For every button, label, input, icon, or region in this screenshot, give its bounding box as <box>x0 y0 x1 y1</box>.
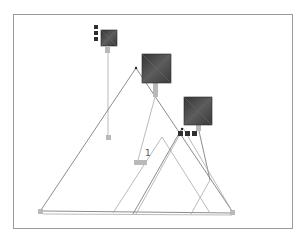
port-square <box>94 37 98 41</box>
stub-c-connector <box>196 125 201 131</box>
stub-b-connector <box>153 83 158 97</box>
end-b-connector <box>134 160 147 165</box>
edge-line <box>41 68 136 210</box>
edge-line <box>183 128 232 211</box>
connector-stubs <box>38 47 235 215</box>
stub-a-connector <box>105 47 110 53</box>
end-a-connector <box>106 135 111 140</box>
port-square <box>94 31 98 35</box>
edge-line <box>136 68 232 211</box>
end-right-connector <box>230 210 235 215</box>
anchor-dot <box>135 67 137 69</box>
edge-line <box>199 131 210 180</box>
port-square <box>178 131 183 136</box>
edge-line <box>43 214 232 215</box>
edge-line <box>113 137 162 213</box>
node-a[interactable] <box>101 30 117 46</box>
edge-line <box>136 136 179 214</box>
end-left-connector <box>38 209 43 214</box>
edge-line <box>133 130 181 214</box>
port-square <box>185 131 190 136</box>
anchor-dot <box>181 128 183 130</box>
node-b[interactable] <box>142 54 171 83</box>
edges <box>41 53 232 215</box>
edge-label: 1 <box>145 148 151 158</box>
node-c[interactable] <box>184 97 212 125</box>
port-square <box>94 25 98 29</box>
nodes <box>101 30 212 125</box>
port-square <box>192 131 197 136</box>
diagram-canvas: 1 <box>0 0 306 244</box>
